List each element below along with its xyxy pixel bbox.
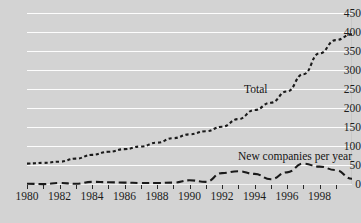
annotation-total: Total <box>244 84 267 96</box>
annotation-new-companies: New companies per year <box>238 151 352 163</box>
line-new-companies <box>27 164 352 185</box>
line-total <box>27 34 352 163</box>
chart-figure: 050100150200250300350400450 198019821984… <box>0 0 361 223</box>
series-lines <box>0 0 361 223</box>
